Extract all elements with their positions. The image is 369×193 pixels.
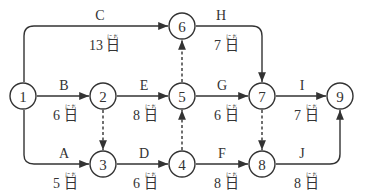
node-6: 6 <box>169 13 195 39</box>
svg-text:6: 6 <box>53 108 60 123</box>
svg-text:8: 8 <box>133 108 140 123</box>
svg-text:4: 4 <box>178 157 186 173</box>
activity-label-j: J <box>299 146 305 161</box>
duration-f: 8 にち 日 <box>214 172 239 191</box>
svg-text:5: 5 <box>178 89 186 105</box>
svg-text:2: 2 <box>99 89 107 105</box>
duration-b: 6 にち 日 <box>53 104 78 123</box>
svg-text:日: 日 <box>225 38 239 53</box>
svg-text:9: 9 <box>336 89 344 105</box>
node-5: 5 <box>169 83 195 109</box>
activity-label-b: B <box>59 78 68 93</box>
duration-d: 6 にち 日 <box>133 172 158 191</box>
node-1: 1 <box>10 83 36 109</box>
duration-j: 8 にち 日 <box>294 172 319 191</box>
activity-label-i: I <box>300 78 305 93</box>
node-9: 9 <box>327 83 353 109</box>
svg-text:8: 8 <box>214 176 221 191</box>
activity-label-f: F <box>218 146 226 161</box>
svg-text:日: 日 <box>305 108 319 123</box>
activity-label-a: A <box>59 146 70 161</box>
svg-text:3: 3 <box>99 157 107 173</box>
activity-label-e: E <box>140 78 149 93</box>
node-7: 7 <box>249 83 275 109</box>
svg-text:8: 8 <box>258 157 266 173</box>
svg-text:日: 日 <box>64 108 78 123</box>
activity-label-d: D <box>139 146 149 161</box>
svg-text:日: 日 <box>225 176 239 191</box>
svg-text:6: 6 <box>133 176 140 191</box>
duration-a: 5 にち 日 <box>53 172 78 191</box>
node-3: 3 <box>90 151 116 177</box>
duration-h: 7 にち 日 <box>214 34 239 53</box>
node-8: 8 <box>249 151 275 177</box>
activity-label-c: C <box>95 8 104 23</box>
svg-text:7: 7 <box>294 108 301 123</box>
svg-text:7: 7 <box>258 89 266 105</box>
svg-text:日: 日 <box>305 176 319 191</box>
svg-text:日: 日 <box>144 108 158 123</box>
svg-text:日: 日 <box>64 176 78 191</box>
svg-text:8: 8 <box>294 176 301 191</box>
activity-edge-c <box>24 26 168 82</box>
svg-text:7: 7 <box>214 38 221 53</box>
svg-text:日: 日 <box>225 108 239 123</box>
node-2: 2 <box>90 83 116 109</box>
duration-i: 7 にち 日 <box>294 104 319 123</box>
svg-text:6: 6 <box>214 108 221 123</box>
svg-text:13: 13 <box>89 38 103 53</box>
activity-label-g: G <box>217 78 227 93</box>
activity-label-h: H <box>216 8 226 23</box>
duration-c: 13 にち 日 <box>89 34 120 53</box>
svg-text:6: 6 <box>178 19 186 35</box>
svg-text:1: 1 <box>19 89 27 105</box>
node-4: 4 <box>169 151 195 177</box>
duration-g: 6 にち 日 <box>214 104 239 123</box>
svg-text:5: 5 <box>53 176 60 191</box>
svg-text:日: 日 <box>144 176 158 191</box>
network-diagram: C H B E G I A D F J 13 にち 日 7 にち 日 6 にち … <box>0 0 369 193</box>
duration-e: 8 にち 日 <box>133 104 158 123</box>
svg-text:日: 日 <box>106 38 120 53</box>
